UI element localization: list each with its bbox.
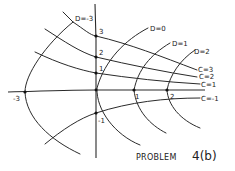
label-d-neg3: D=-3: [75, 15, 93, 23]
label-d0: D=0: [150, 25, 166, 33]
point-xneg3: [23, 90, 26, 93]
label-x2: 2: [170, 93, 174, 101]
point-origin: [95, 89, 98, 92]
curve-d0: [97, 28, 148, 145]
title: PROBLEM: [136, 153, 177, 162]
label-c-neg1: C=-1: [201, 95, 219, 103]
point-yneg1: [94, 111, 97, 114]
vertical-axis: [95, 4, 96, 158]
label-y2: 2: [99, 49, 103, 57]
diagram-canvas: 3 2 1 -1 -3 1 2 D=-3 D=0 D=1 D=2 C=3 C=2…: [0, 0, 235, 171]
label-y1: 1: [99, 65, 103, 73]
point-y1: [94, 71, 97, 74]
point-x2: [165, 88, 168, 91]
curve-d-neg3-leader: [63, 12, 73, 22]
label-c2: C=2: [199, 73, 214, 81]
curve-c1: [35, 52, 200, 84]
point-x1: [132, 88, 135, 91]
curve-d-neg3: [25, 22, 80, 154]
curve-c-neg1: [45, 98, 200, 144]
curve-c2: [45, 29, 197, 77]
horizontal-axis: [8, 90, 205, 92]
point-y2: [94, 55, 97, 58]
label-x1: 1: [135, 93, 139, 101]
label-xneg3: -3: [13, 95, 20, 103]
title-suffix: 4(b): [192, 149, 217, 163]
label-yneg1: -1: [98, 117, 105, 125]
curve-d2: [167, 50, 200, 128]
label-d1: D=1: [172, 40, 188, 48]
label-y3: 3: [99, 28, 103, 36]
curve-d1: [134, 43, 170, 133]
label-c1: C=1: [201, 81, 216, 89]
point-y3: [94, 34, 97, 37]
label-d2: D=2: [194, 48, 210, 56]
